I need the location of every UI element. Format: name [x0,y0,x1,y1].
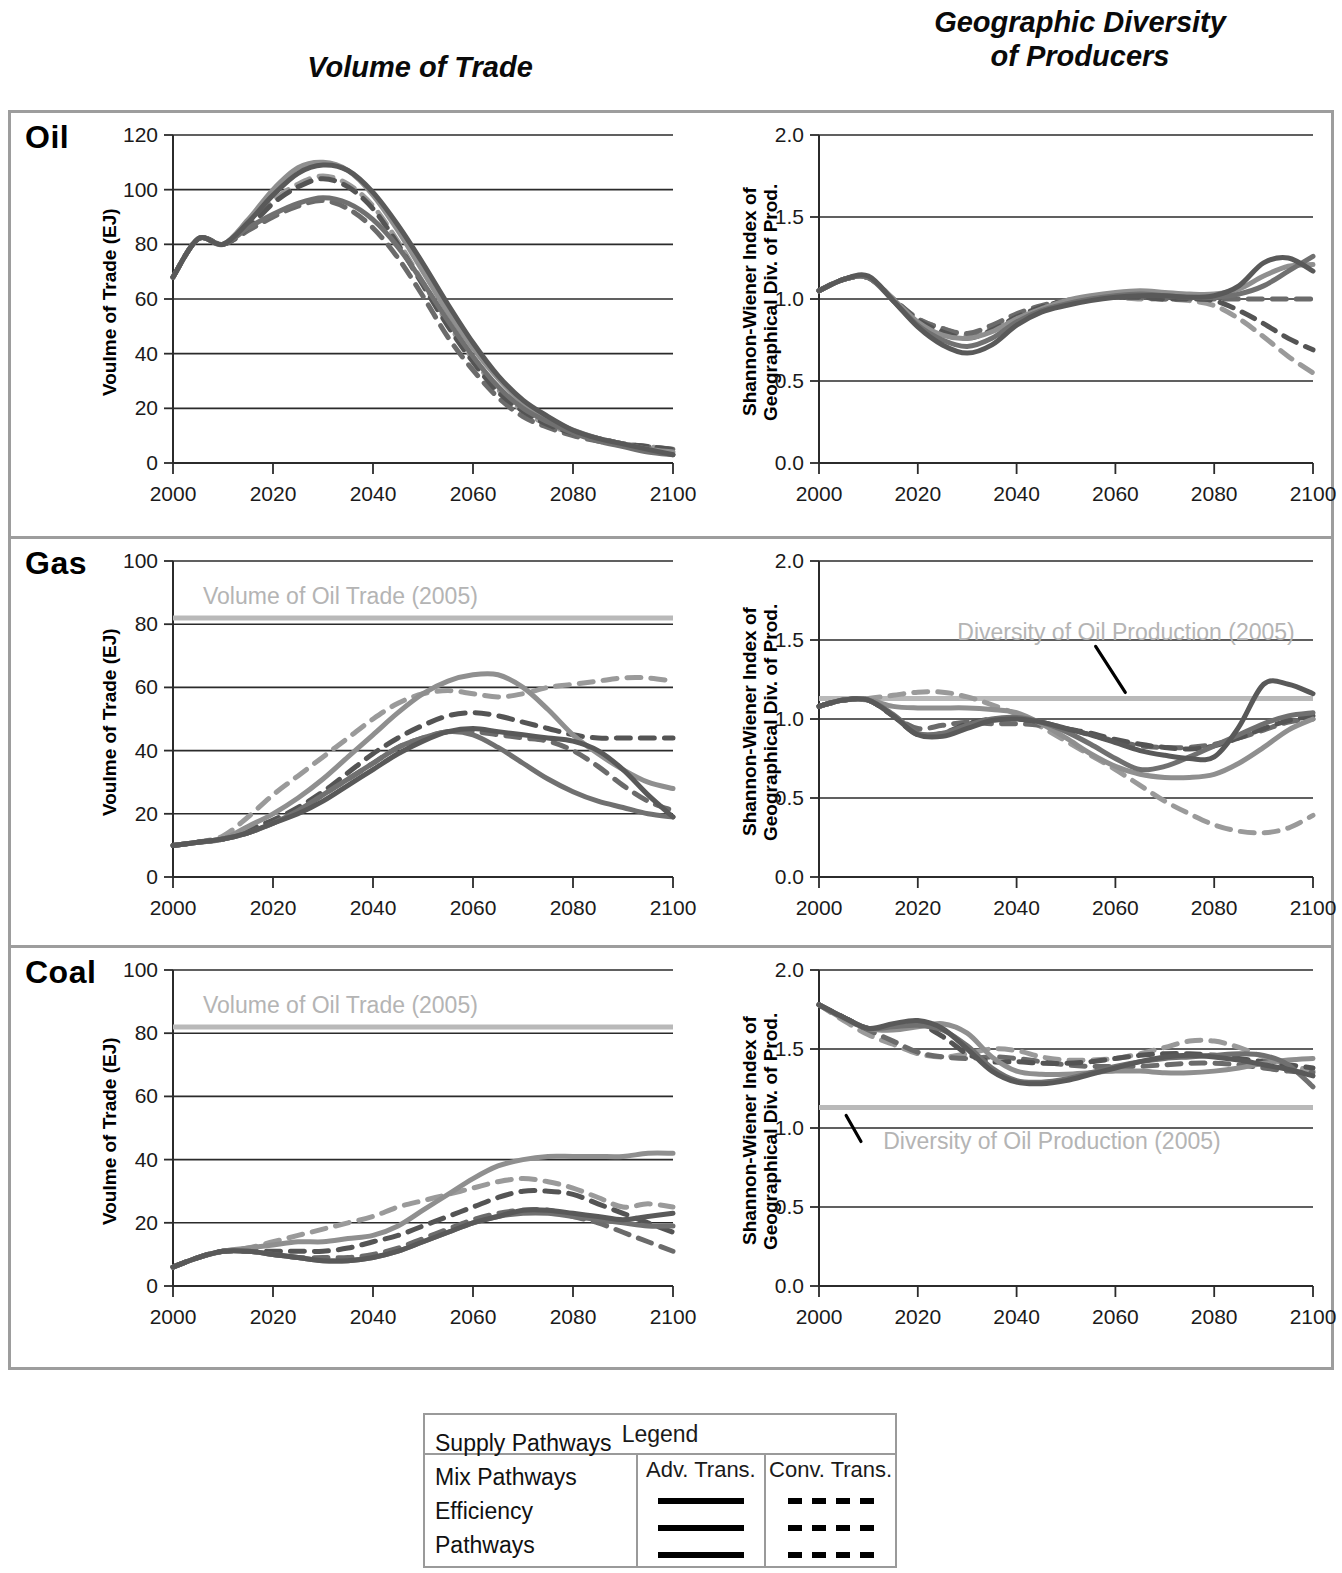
chart-svg-coal-volume: 020406080100Volume of Oil Trade (2005)20… [111,948,691,1372]
x-tick-label: 2020 [250,896,297,919]
y-tick-label: 60 [135,287,158,310]
x-tick-label: 2100 [650,482,697,505]
y-tick-label: 20 [135,802,158,825]
legend-row-label-supply: Supply Pathways [435,1426,636,1460]
chart-svg-oil-volume: 020406080100120200020202040206020802100 [111,113,691,541]
legend-swatch-wrap-efficiency-conv [788,1541,874,1568]
x-tick-label: 2040 [993,1305,1040,1328]
y-tick-label: 2.0 [775,958,804,981]
panel-coal: Coal Voulme of Trade (EJ) Shannon-Wiener… [8,946,1334,1370]
chart-oil-volume-of-trade: 020406080100120200020202040206020802100 [111,113,691,536]
x-tick-label: 2040 [350,896,397,919]
reference-line-label: Volume of Oil Trade (2005) [203,583,478,609]
legend-swatch-wrap-efficiency-adv [658,1541,744,1568]
series-line [173,1191,673,1267]
series-line [819,699,1313,770]
x-tick-label: 2000 [796,896,843,919]
x-tick-label: 2020 [250,482,297,505]
reference-line-label: Diversity of Oil Production (2005) [883,1128,1220,1154]
row-label-oil: Oil [25,119,69,156]
legend-box: Legend Supply Pathways Mix Pathways Effi… [423,1413,897,1568]
x-tick-label: 2080 [550,896,597,919]
y-tick-label: 20 [135,396,158,419]
panel-gas: Gas Voulme of Trade (EJ) Shannon-Wiener … [8,537,1334,947]
column-title-volume-of-trade: Volume of Trade [230,50,610,84]
series-line [173,678,673,846]
series-line [819,681,1313,760]
legend-swatch-wrap-mix-adv [658,1514,744,1541]
y-tick-label: 120 [123,123,158,146]
x-tick-label: 2000 [150,482,197,505]
chart-oil-diversity: 0.00.51.01.52.0200020202040206020802100 [751,113,1331,536]
y-tick-label: 80 [135,612,158,635]
y-tick-label: 80 [135,232,158,255]
y-tick-label: 1.5 [775,1037,804,1060]
column-title-diversity-line1: Geographic Diversity [880,5,1280,39]
legend-column-header-conv: Conv. Trans. [769,1457,892,1483]
legend-swatch-supply-adv [658,1498,744,1504]
legend-body: Supply Pathways Mix Pathways Efficiency … [425,1455,895,1568]
y-tick-label: 40 [135,342,158,365]
legend-column-adv-trans: Adv. Trans. [638,1455,767,1568]
legend-column-conv-trans: Conv. Trans. [766,1455,895,1568]
x-tick-label: 2100 [1290,482,1337,505]
x-tick-label: 2000 [796,1305,843,1328]
y-tick-label: 40 [135,1148,158,1171]
row-label-coal: Coal [25,954,96,991]
chart-svg-gas-volume: 020406080100Volume of Oil Trade (2005)20… [111,539,691,949]
column-title-diversity-line2: of Producers [880,39,1280,73]
x-tick-label: 2080 [550,482,597,505]
series-line [173,198,673,455]
x-tick-label: 2080 [1191,482,1238,505]
x-tick-label: 2100 [650,1305,697,1328]
x-tick-label: 2080 [550,1305,597,1328]
y-tick-label: 0 [146,865,158,888]
y-tick-label: 0.5 [775,369,804,392]
x-tick-label: 2000 [150,1305,197,1328]
y-tick-label: 60 [135,1084,158,1107]
x-tick-label: 2040 [350,482,397,505]
legend-row-labels: Supply Pathways Mix Pathways Efficiency … [425,1455,638,1568]
legend-swatch-supply-conv [788,1498,874,1504]
x-tick-label: 2040 [993,482,1040,505]
x-tick-label: 2040 [350,1305,397,1328]
x-tick-label: 2080 [1191,896,1238,919]
chart-gas-volume-of-trade: 020406080100Volume of Oil Trade (2005)20… [111,539,691,945]
legend-swatch-mix-conv [788,1525,874,1531]
y-tick-label: 0 [146,451,158,474]
legend-swatch-mix-adv [658,1525,744,1531]
y-tick-label: 80 [135,1021,158,1044]
x-tick-label: 2100 [650,896,697,919]
x-tick-label: 2060 [1092,482,1139,505]
x-tick-label: 2060 [450,896,497,919]
x-tick-label: 2080 [1191,1305,1238,1328]
series-line [173,165,673,455]
legend-row-label-mix: Mix Pathways [435,1460,636,1494]
x-tick-label: 2000 [796,482,843,505]
chart-svg-gas-diversity: 0.00.51.01.52.0Diversity of Oil Producti… [751,539,1331,949]
reference-line-label: Diversity of Oil Production (2005) [957,619,1294,645]
legend-column-header-adv: Adv. Trans. [646,1457,756,1483]
x-tick-label: 2020 [894,482,941,505]
chart-svg-oil-diversity: 0.00.51.01.52.0200020202040206020802100 [751,113,1331,541]
chart-coal-volume-of-trade: 020406080100Volume of Oil Trade (2005)20… [111,948,691,1367]
chart-coal-diversity: 0.00.51.01.52.0Diversity of Oil Producti… [751,948,1331,1367]
series-line [819,258,1313,354]
legend-swatch-wrap-mix-conv [788,1514,874,1541]
x-tick-label: 2020 [894,1305,941,1328]
y-tick-label: 0.5 [775,1195,804,1218]
y-tick-label: 0.0 [775,865,804,888]
y-tick-label: 1.0 [775,707,804,730]
x-tick-label: 2020 [250,1305,297,1328]
y-tick-label: 100 [123,178,158,201]
x-tick-label: 2060 [1092,896,1139,919]
reference-line-label: Volume of Oil Trade (2005) [203,992,478,1018]
chart-svg-coal-diversity: 0.00.51.01.52.0Diversity of Oil Producti… [751,948,1331,1372]
legend-row-label-efficiency: Efficiency Pathways [435,1494,636,1562]
y-tick-label: 0.0 [775,451,804,474]
column-title-volume-text: Volume of Trade [307,51,533,83]
legend-swatch-efficiency-conv [788,1552,874,1558]
row-label-gas: Gas [25,545,87,582]
y-tick-label: 0.0 [775,1274,804,1297]
y-tick-label: 0 [146,1274,158,1297]
